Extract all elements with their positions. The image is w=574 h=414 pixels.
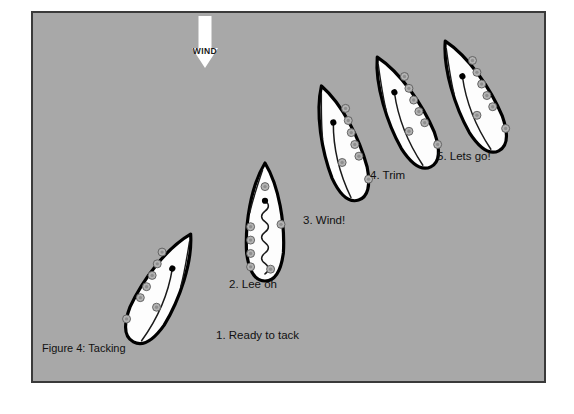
crew-member [405, 127, 413, 135]
crew-head [423, 121, 426, 124]
crew-member [338, 158, 346, 166]
crew-head [412, 98, 415, 101]
crew-member [247, 263, 255, 271]
crew-member [148, 271, 156, 279]
crew-head [475, 114, 478, 117]
crew-head [344, 107, 347, 110]
crew-head [347, 119, 350, 122]
tacking-figure: WIND 1. Ready to tack2. Lee oh3. Wind!4.… [0, 0, 574, 414]
crew-head [407, 87, 410, 90]
crew-member [158, 248, 166, 256]
crew-head [150, 274, 153, 277]
crew-member [247, 249, 255, 257]
crew-member [478, 80, 486, 88]
crew-member [421, 119, 429, 127]
crew-head [407, 130, 410, 133]
crew-head [357, 154, 360, 157]
crew-head [249, 225, 252, 228]
crew-member [351, 141, 359, 149]
crew-member [483, 92, 491, 100]
crew-head [504, 127, 507, 130]
mast-dot [262, 198, 268, 204]
crew-member [342, 104, 350, 112]
crew-head [480, 82, 483, 85]
crew-head [340, 161, 343, 164]
crew-member [405, 84, 413, 92]
figure-caption: Figure 4: Tacking [42, 342, 126, 354]
crew-head [485, 94, 488, 97]
crew-member [344, 117, 352, 125]
crew-member [473, 111, 481, 119]
crew-member [400, 72, 408, 80]
crew-member [267, 265, 275, 273]
wind-label: WIND [193, 46, 217, 56]
crew-head [139, 296, 142, 299]
crew-head [249, 238, 252, 241]
step-label-5: 5. Lets go! [437, 150, 491, 162]
crew-head [249, 252, 252, 255]
crew-head [471, 59, 474, 62]
step-label-2: 2. Lee oh [229, 278, 277, 290]
crew-head [145, 285, 148, 288]
step-label-1: 1. Ready to tack [216, 329, 299, 341]
crew-head [279, 223, 282, 226]
figure-canvas: WIND 1. Ready to tack2. Lee oh3. Wind!4.… [0, 0, 574, 414]
crew-head [475, 71, 478, 74]
crew-head [269, 268, 272, 271]
crew-head [156, 262, 159, 265]
crew-member [277, 220, 285, 228]
crew-member [123, 315, 131, 323]
crew-head [263, 185, 266, 188]
crew-head [403, 75, 406, 78]
crew-member [136, 294, 144, 302]
crew-member [489, 103, 497, 111]
crew-member [468, 56, 476, 64]
crew-head [350, 131, 353, 134]
crew-head [491, 105, 494, 108]
step-label-4: 4. Trim [370, 169, 405, 181]
crew-member [247, 223, 255, 231]
crew-head [417, 110, 420, 113]
crew-member [247, 236, 255, 244]
crew-member [410, 96, 418, 104]
crew-head [155, 306, 158, 309]
crew-member [434, 140, 442, 148]
crew-head [249, 265, 252, 268]
crew-member [502, 124, 510, 132]
crew-member [153, 260, 161, 268]
crew-head [125, 317, 128, 320]
crew-member [153, 303, 161, 311]
crew-head [353, 143, 356, 146]
crew-member [355, 152, 363, 160]
crew-member [261, 183, 269, 191]
crew-member [415, 108, 423, 116]
crew-member [347, 129, 355, 137]
step-label-3: 3. Wind! [303, 214, 345, 226]
crew-member [143, 283, 151, 291]
crew-member [473, 68, 481, 76]
crew-head [436, 143, 439, 146]
crew-head [160, 250, 163, 253]
